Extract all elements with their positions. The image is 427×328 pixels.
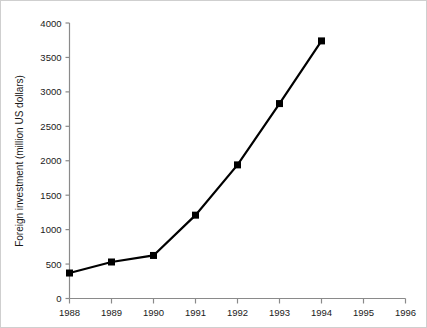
- y-axis-tick-label: 2000: [40, 155, 61, 166]
- x-axis-tick-label: 1995: [353, 307, 374, 318]
- data-point-marker: [276, 100, 283, 107]
- y-axis-tick-labels: 05001000150020002500300035004000: [40, 18, 61, 305]
- x-axis-tick-label: 1994: [311, 307, 332, 318]
- y-axis-tick-label: 3500: [40, 52, 61, 63]
- data-point-marker: [234, 161, 241, 168]
- data-series-markers: [66, 37, 325, 276]
- y-axis-tick-label: 1000: [40, 224, 61, 235]
- y-axis-tick-label: 2500: [40, 121, 61, 132]
- x-axis-tick-label: 1988: [59, 307, 80, 318]
- data-point-marker: [150, 252, 157, 259]
- y-axis-tick-label: 4000: [40, 18, 61, 29]
- y-axis-tick-label: 500: [46, 259, 62, 270]
- x-axis-tick-marks: [70, 299, 406, 304]
- x-axis-tick-label: 1993: [269, 307, 290, 318]
- x-axis-tick-label: 1996: [395, 307, 416, 318]
- data-series-line-foreign-investment: [70, 41, 322, 273]
- y-axis-title: Foreign investment (million US dollars): [14, 75, 25, 247]
- x-axis-tick-label: 1989: [101, 307, 122, 318]
- chart-figure: 05001000150020002500300035004000 1988198…: [0, 0, 427, 328]
- data-point-marker: [192, 212, 199, 219]
- line-chart-plot: 05001000150020002500300035004000 1988198…: [1, 1, 427, 328]
- x-axis-tick-labels: 198819891990199119921993199419951996: [59, 307, 416, 318]
- y-axis-tick-label: 0: [56, 293, 61, 304]
- data-point-marker: [66, 270, 73, 277]
- data-point-marker: [318, 37, 325, 44]
- x-axis-tick-label: 1992: [227, 307, 248, 318]
- y-axis-tick-label: 3000: [40, 86, 61, 97]
- y-axis-tick-label: 1500: [40, 190, 61, 201]
- x-axis-tick-label: 1991: [185, 307, 206, 318]
- data-point-marker: [108, 258, 115, 265]
- x-axis-tick-label: 1990: [143, 307, 164, 318]
